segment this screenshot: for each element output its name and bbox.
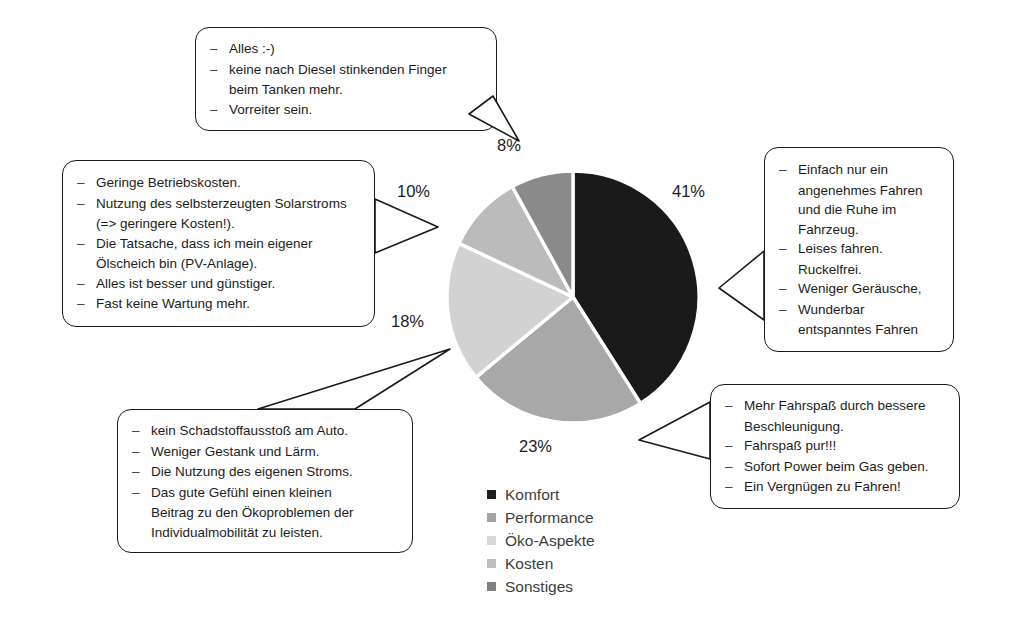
callout-list: Vorreiter sein. [206, 100, 486, 120]
callout-continuation: Beschleunigung. [721, 417, 949, 437]
list-item: Ein Vergnügen zu Fahren! [721, 477, 949, 497]
legend-item-sonstiges[interactable]: Sonstiges [487, 575, 595, 598]
pie-svg [445, 169, 701, 425]
legend-item-komfort[interactable]: Komfort [487, 483, 595, 506]
list-item: Leises fahren. [775, 239, 943, 259]
callout-line: Mehr Fahrspaß durch bessere [744, 398, 926, 413]
list-item: Das gute Gefühl einen kleinen [128, 483, 402, 503]
callout-list: Weniger Geräusche, Wunderbar [775, 279, 943, 319]
legend-swatch-icon [487, 559, 496, 568]
legend-swatch-icon [487, 582, 496, 591]
list-item: Alles :-) [206, 39, 486, 59]
list-item: Weniger Geräusche, [775, 279, 943, 299]
callout-tail-left [375, 199, 438, 253]
callout-oeko-aspekte[interactable]: kein Schadstoffausstoß am Auto. Weniger … [117, 409, 413, 553]
legend-item-kosten[interactable]: Kosten [487, 552, 595, 575]
legend-item-label: Öko-Aspekte [505, 532, 595, 550]
callout-list: Einfach nur ein [775, 160, 943, 180]
callout-line: Fahrspaß pur!!! [744, 438, 836, 453]
callout-line: Sofort Power beim Gas geben. [744, 459, 929, 474]
callout-line: Alles :-) [229, 41, 275, 56]
callout-sonstiges[interactable]: Alles :-) keine nach Diesel stinkenden F… [195, 27, 497, 131]
list-item: Vorreiter sein. [206, 100, 486, 120]
callout-continuation: Beitrag zu den Ökoproblemen der [128, 503, 402, 523]
callout-list: Alles ist besser und günstiger. Fast kei… [73, 274, 364, 314]
legend-item-performance[interactable]: Performance [487, 506, 595, 529]
callout-line: Nutzung des selbsterzeugten Solarstroms [96, 196, 347, 211]
list-item: Einfach nur ein [775, 160, 943, 180]
callout-continuation: Individualmobilität zu leisten. [128, 523, 402, 543]
legend-item-label: Performance [505, 509, 594, 527]
callout-continuation: (=> geringere Kosten!). [73, 214, 364, 234]
callout-line: Einfach nur ein [798, 162, 888, 177]
callout-list: kein Schadstoffausstoß am Auto. Weniger … [128, 421, 402, 502]
legend-item-label: Sonstiges [505, 578, 573, 596]
callout-continuation: angenehmes Fahren [775, 181, 943, 201]
callout-line: Weniger Gestank und Lärm. [151, 444, 320, 459]
callout-line: keine nach Diesel stinkenden Finger [229, 62, 447, 77]
callout-line: Die Tatsache, dass ich mein eigener [96, 236, 313, 251]
list-item: Weniger Gestank und Lärm. [128, 442, 402, 462]
callout-continuation: Ölscheich bin (PV-Anlage). [73, 254, 364, 274]
callout-line: Das gute Gefühl einen kleinen [151, 485, 332, 500]
list-item: Geringe Betriebskosten. [73, 173, 364, 193]
callout-list: Geringe Betriebskosten. Nutzung des selb… [73, 173, 364, 213]
callout-continuation: Fahrzeug. [775, 220, 943, 240]
list-item: Die Tatsache, dass ich mein eigener [73, 234, 364, 254]
callout-continuation: Ruckelfrei. [775, 260, 943, 280]
callout-line: Geringe Betriebskosten. [96, 175, 241, 190]
callout-continuation: und die Ruhe im [775, 200, 943, 220]
list-item: Alles ist besser und günstiger. [73, 274, 364, 294]
callout-line: kein Schadstoffausstoß am Auto. [151, 423, 348, 438]
list-item: Fast keine Wartung mehr. [73, 294, 364, 314]
callout-line: Ein Vergnügen zu Fahren! [744, 479, 901, 494]
callout-line: Leises fahren. [798, 241, 883, 256]
list-item: Die Nutzung des eigenen Stroms. [128, 462, 402, 482]
chart-canvas: 41% 23% 18% 10% 8% Alles :-) keine nach … [0, 0, 1014, 620]
list-item: Sofort Power beim Gas geben. [721, 457, 949, 477]
pie-chart [445, 169, 701, 425]
legend-item-label: Kosten [505, 555, 553, 573]
callout-list: Die Tatsache, dass ich mein eigener [73, 234, 364, 254]
list-item: keine nach Diesel stinkenden Finger [206, 60, 486, 80]
list-item: Mehr Fahrspaß durch bessere [721, 396, 949, 416]
callout-line: Fast keine Wartung mehr. [96, 296, 250, 311]
legend-swatch-icon [487, 513, 496, 522]
callout-line: Vorreiter sein. [229, 102, 312, 117]
list-item: Wunderbar [775, 300, 943, 320]
callout-list: Fahrspaß pur!!! Sofort Power beim Gas ge… [721, 436, 949, 497]
callout-performance[interactable]: Mehr Fahrspaß durch bessere Beschleunigu… [710, 384, 960, 509]
pie-value-label-komfort: 41% [672, 182, 705, 201]
callout-list: Leises fahren. [775, 239, 943, 259]
callout-line: Wunderbar [798, 302, 865, 317]
pie-value-label-oeko-aspekte: 18% [391, 312, 424, 331]
legend-item-label: Komfort [505, 486, 559, 504]
list-item: Fahrspaß pur!!! [721, 436, 949, 456]
legend-swatch-icon [487, 490, 496, 499]
chart-legend: KomfortPerformanceÖko-AspekteKostenSonst… [487, 483, 595, 598]
callout-komfort[interactable]: Einfach nur ein angenehmes Fahren und di… [764, 147, 954, 352]
callout-list: Mehr Fahrspaß durch bessere [721, 396, 949, 416]
callout-line: Alles ist besser und günstiger. [96, 276, 275, 291]
callout-line: Weniger Geräusche, [798, 281, 922, 296]
legend-item--ko-aspekte[interactable]: Öko-Aspekte [487, 529, 595, 552]
callout-tail-bottom-left [258, 349, 450, 409]
callout-line: Die Nutzung des eigenen Stroms. [151, 464, 353, 479]
callout-continuation: beim Tanken mehr. [206, 80, 486, 100]
legend-swatch-icon [487, 536, 496, 545]
list-item: Nutzung des selbsterzeugten Solarstroms [73, 194, 364, 214]
callout-continuation: entspanntes Fahren [775, 320, 943, 340]
pie-value-label-kosten: 10% [397, 182, 430, 201]
list-item: kein Schadstoffausstoß am Auto. [128, 421, 402, 441]
pie-value-label-sonstiges: 8% [497, 136, 521, 155]
callout-kosten[interactable]: Geringe Betriebskosten. Nutzung des selb… [62, 160, 375, 327]
callout-list: Alles :-) keine nach Diesel stinkenden F… [206, 39, 486, 79]
callout-tail-right [719, 251, 764, 320]
pie-value-label-performance: 23% [519, 437, 552, 456]
